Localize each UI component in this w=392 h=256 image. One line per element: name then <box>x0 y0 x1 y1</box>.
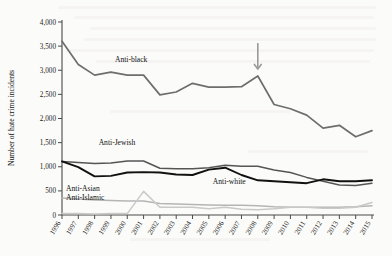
x-tick-label: 1997 <box>65 219 80 236</box>
x-tick-label: 2013 <box>326 219 341 236</box>
series-label-anti-asian: Anti-Asian <box>66 184 100 193</box>
x-tick-label: 2015 <box>358 219 373 236</box>
series-labels: Anti-blackAnti-JewishAnti-whiteAnti-Asia… <box>66 55 246 202</box>
series-line-anti-black <box>62 41 372 137</box>
y-tick-label: 0 <box>52 212 56 220</box>
x-tick-label: 2010 <box>277 219 292 236</box>
y-tick-label: 500 <box>45 187 56 195</box>
x-tick-label: 2014 <box>342 219 357 236</box>
x-tick-label: 2005 <box>195 219 210 236</box>
x-tick-label: 2004 <box>179 219 194 236</box>
y-tick-label: 3,000 <box>40 67 57 75</box>
x-tick-label: 1996 <box>48 219 63 236</box>
series-line-anti-islamic <box>62 191 372 214</box>
x-tick-label: 2002 <box>146 219 161 236</box>
series-label-anti-white: Anti-white <box>213 177 247 186</box>
chart-canvas: 05001,0001,5002,0002,5003,0003,5004,000 … <box>0 0 392 256</box>
series-line-anti-asian <box>62 198 372 207</box>
series-label-anti-jewish: Anti-Jewish <box>99 138 136 147</box>
y-tick-label: 3,500 <box>40 43 57 51</box>
x-tick-label: 2003 <box>163 219 178 236</box>
x-tick-label: 2009 <box>260 219 275 236</box>
series-label-anti-black: Anti-black <box>115 55 148 64</box>
x-tick-label: 2007 <box>228 219 243 236</box>
series-label-anti-islamic: Anti-Islamic <box>66 193 105 202</box>
y-tick-label: 4,000 <box>40 19 57 27</box>
y-tick-label: 2,500 <box>40 91 57 99</box>
x-tick-label: 2006 <box>211 219 226 236</box>
x-tick-label: 2001 <box>130 219 145 236</box>
y-axis: 05001,0001,5002,0002,5003,0003,5004,000 <box>40 19 62 220</box>
x-tick-label: 1999 <box>97 219 112 236</box>
x-axis: 1996199719981999200020012002200320042005… <box>48 215 374 236</box>
y-tick-label: 2,000 <box>40 115 57 123</box>
chart-figure: 05001,0001,5002,0002,5003,0003,5004,000 … <box>0 0 392 256</box>
y-tick-label: 1,000 <box>40 163 57 171</box>
x-tick-label: 2000 <box>114 219 129 236</box>
series-lines <box>62 41 372 214</box>
x-tick-label: 2008 <box>244 219 259 236</box>
x-tick-label: 2012 <box>309 219 324 236</box>
annotations <box>254 43 261 69</box>
y-axis-title: Number of hate crime incidents <box>7 70 16 166</box>
x-tick-label: 1998 <box>81 219 96 236</box>
arrow-2008 <box>254 43 261 69</box>
x-tick-label: 2011 <box>293 219 307 236</box>
y-tick-label: 1,500 <box>40 139 57 147</box>
